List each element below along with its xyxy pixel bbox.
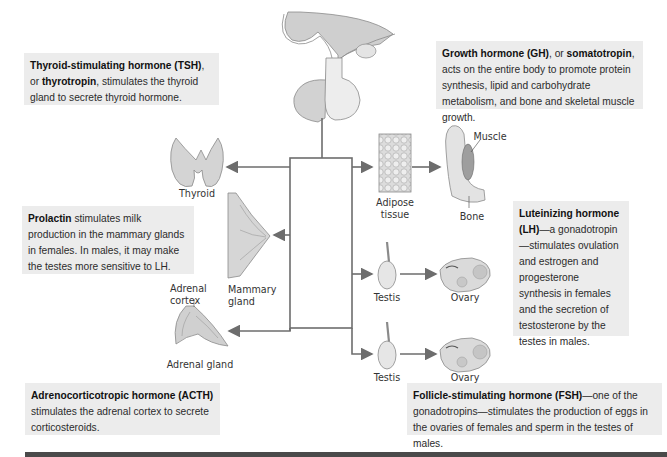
thyroid-icon (171, 138, 224, 187)
prolactin-description-box: Prolactin stimulates milk production in … (22, 206, 194, 274)
adrenal-gland-label: Adrenal gland (160, 359, 240, 371)
mammary-gland-icon (228, 193, 270, 278)
tsh-name: Thyroid-stimulating hormone (TSH) (30, 60, 201, 71)
testis-fsh-icon (378, 322, 396, 369)
ovary-lh-icon (440, 258, 490, 292)
prolactin-name: Prolactin (28, 213, 72, 224)
lh-description-box: Luteinizing hormone (LH)—a gonadotropin—… (513, 201, 629, 336)
adrenal-cortex-label: Adrenal cortex (170, 283, 216, 307)
mammary-gland-label: Mammary gland (228, 284, 282, 308)
gh-name: Growth hormone (GH) (442, 48, 549, 59)
fsh-description-box: Follicle-stimulating hormone (FSH)—one o… (407, 383, 662, 435)
fsh-name: Follicle-stimulating hormone (FSH) (413, 390, 582, 401)
gh-alt-name: somatotropin (567, 48, 632, 59)
ovary-fsh-label: Ovary (447, 372, 483, 384)
ovary-lh-label: Ovary (447, 292, 483, 304)
gh-description-box: Growth hormone (GH), or somatotropin, ac… (436, 41, 643, 109)
muscle-label: Muscle (470, 131, 510, 143)
ovary-fsh-icon (440, 338, 490, 372)
bottom-divider-bar (25, 452, 667, 457)
testis-fsh-label: Testis (369, 372, 405, 384)
adipose-tissue-label: Adipose tissue (370, 197, 420, 221)
testis-lh-label: Testis (369, 292, 405, 304)
thyroid-label: Thyroid (172, 188, 222, 200)
pituitary-gland-icon (282, 12, 395, 122)
tsh-alt-name: thyrotropin (42, 76, 96, 87)
adipose-tissue-icon (379, 134, 411, 192)
tsh-description-box: Thyroid-stimulating hormone (TSH), or th… (24, 53, 219, 105)
bone-label: Bone (455, 211, 489, 223)
acth-description-box: Adrenocorticotropic hormone (ACTH) stimu… (25, 383, 220, 435)
testis-lh-icon (378, 242, 396, 289)
acth-name: Adrenocorticotropic hormone (ACTH) (31, 390, 213, 401)
